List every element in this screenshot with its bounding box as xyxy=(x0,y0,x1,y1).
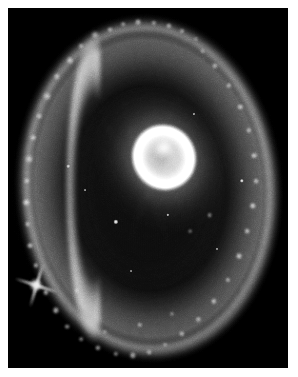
hii-knot xyxy=(90,31,99,40)
hii-knot xyxy=(165,22,172,29)
figure-root xyxy=(0,0,298,377)
hii-knot xyxy=(169,311,174,316)
figure-caption xyxy=(8,369,288,377)
hii-knot xyxy=(226,82,232,88)
hii-knot xyxy=(33,262,39,268)
hii-knot xyxy=(225,277,231,283)
hii-knot xyxy=(200,48,206,54)
hii-knot xyxy=(237,103,244,110)
hii-knot xyxy=(25,155,34,164)
hii-knot xyxy=(120,21,126,27)
hii-knot xyxy=(212,62,219,69)
hii-knot xyxy=(78,336,84,342)
hii-knot xyxy=(23,177,30,184)
hii-knot xyxy=(210,298,217,305)
hii-knot xyxy=(35,113,42,120)
hii-knot xyxy=(150,20,156,26)
hii-knot xyxy=(63,323,70,330)
field-star xyxy=(84,188,87,191)
hii-knot xyxy=(179,28,185,34)
hii-knot xyxy=(51,306,59,314)
hii-knot xyxy=(94,345,101,352)
hii-knot xyxy=(188,229,193,234)
hii-knot xyxy=(134,18,142,26)
field-star xyxy=(66,165,70,169)
field-star xyxy=(215,248,218,251)
hii-knot xyxy=(77,42,84,49)
hii-knot xyxy=(252,177,259,184)
hii-knot xyxy=(195,316,201,322)
hii-knot xyxy=(43,92,52,101)
hii-knot xyxy=(128,351,136,359)
hii-knot xyxy=(244,228,251,235)
hii-knot xyxy=(178,330,185,337)
hii-knot xyxy=(26,242,34,250)
hii-knot xyxy=(53,73,60,80)
field-star xyxy=(130,269,133,272)
hii-knot xyxy=(136,322,142,328)
hii-knot xyxy=(29,134,37,142)
hii-knot xyxy=(107,26,114,33)
hii-knot xyxy=(22,198,30,206)
hii-knot xyxy=(162,342,168,348)
ring-bright-left-limb xyxy=(16,30,100,347)
hii-knot xyxy=(146,348,153,355)
hii-knot xyxy=(74,288,80,294)
hii-knot xyxy=(250,152,258,160)
hii-knot xyxy=(246,127,252,133)
hii-knot xyxy=(193,36,198,41)
hii-knot xyxy=(65,56,73,64)
hii-knot xyxy=(235,252,243,260)
field-star xyxy=(113,220,118,225)
hii-knot xyxy=(102,329,107,334)
hii-knot xyxy=(249,202,257,210)
foreground-star-with-spikes xyxy=(36,285,37,286)
hii-knot xyxy=(113,350,119,356)
hii-knot xyxy=(24,221,31,228)
field-star xyxy=(240,179,244,183)
astronomy-photo-plate xyxy=(8,8,288,368)
